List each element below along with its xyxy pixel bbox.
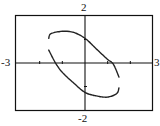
ymax-label: 2: [81, 2, 87, 13]
curve-branch: [49, 31, 119, 77]
xmax-label: 3: [154, 57, 160, 68]
ellipse-curve: [49, 31, 119, 97]
xmin-label: -3: [1, 57, 10, 68]
curve-branch: [49, 50, 119, 97]
graph-plot: [0, 0, 160, 126]
ymin-label: -2: [78, 113, 87, 124]
